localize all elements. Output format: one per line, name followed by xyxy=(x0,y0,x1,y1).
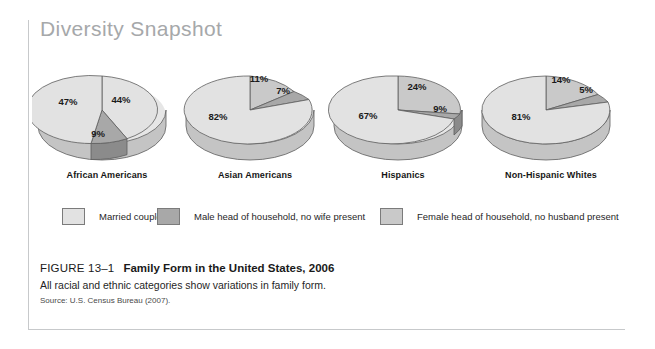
slice-label: 14% xyxy=(551,74,571,85)
legend-item-married-couple: Married couple xyxy=(62,208,162,225)
slice-label: 7% xyxy=(276,85,290,96)
slice-label: 67% xyxy=(358,110,378,121)
legend-label: Female head of household, no husband pre… xyxy=(417,211,619,222)
slice-label: 11% xyxy=(250,73,269,84)
frame-bottom-rule xyxy=(28,329,625,330)
pie-svg-1: 47% 44% 9% xyxy=(32,50,182,180)
slice-label: 5% xyxy=(579,84,593,95)
legend-swatch-icon xyxy=(380,208,403,225)
frame-left-rule xyxy=(28,20,29,330)
pie-chart-hispanics: 67% 24% 9% Hispanics xyxy=(328,50,478,185)
legend-item-female-head: Female head of household, no husband pre… xyxy=(380,208,619,225)
slice-label: 47% xyxy=(58,96,78,107)
caption-headline: FIGURE 13–1Family Form in the United Sta… xyxy=(40,262,620,274)
pie-chart-asian-americans: 82% 11% 7% Asian Americans xyxy=(180,50,330,185)
slice-label: 24% xyxy=(407,81,427,92)
legend: Married couple Male head of household, n… xyxy=(0,208,655,236)
caption-source: Source: U.S. Census Bureau (2007). xyxy=(40,296,620,305)
slice-label: 82% xyxy=(208,111,228,122)
figure-caption: FIGURE 13–1Family Form in the United Sta… xyxy=(40,262,620,305)
caption-note: All racial and ethnic categories show va… xyxy=(40,279,620,291)
pie-caption: Hispanics xyxy=(328,170,478,180)
slice-label: 9% xyxy=(433,103,447,114)
pie-caption: Asian Americans xyxy=(180,170,330,180)
slice-label: 9% xyxy=(91,128,105,139)
legend-label: Married couple xyxy=(99,211,162,222)
pie-charts-row: 47% 44% 9% African Americans 82% 11% 7% … xyxy=(32,50,632,185)
figure-number: FIGURE 13–1 xyxy=(40,262,114,274)
pie-chart-african-americans: 47% 44% 9% African Americans xyxy=(32,50,182,185)
page-title: Diversity Snapshot xyxy=(40,17,222,41)
slice-label: 44% xyxy=(111,94,131,105)
pie-svg-4: 81% 14% 5% xyxy=(476,50,626,180)
legend-label: Male head of household, no wife present xyxy=(194,211,365,222)
figure-container: Diversity Snapshot 47% 44% 9% African Am… xyxy=(0,0,655,349)
pie-svg-2: 82% 11% 7% xyxy=(180,50,330,180)
pie-chart-non-hispanic-whites: 81% 14% 5% Non-Hispanic Whites xyxy=(476,50,626,185)
pie-caption: African Americans xyxy=(32,170,182,180)
legend-item-male-head: Male head of household, no wife present xyxy=(157,208,365,225)
legend-swatch-icon xyxy=(62,208,85,225)
pie-caption: Non-Hispanic Whites xyxy=(476,170,626,180)
pie-svg-3: 67% 24% 9% xyxy=(328,50,478,180)
slice-label: 81% xyxy=(511,111,531,122)
legend-swatch-icon xyxy=(157,208,180,225)
figure-title: Family Form in the United States, 2006 xyxy=(123,262,334,274)
